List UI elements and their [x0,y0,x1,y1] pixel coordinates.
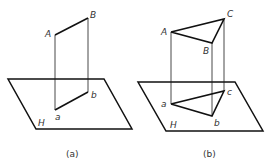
label-A: A [44,29,51,39]
projection-diagram: A B a b H (a) A B C a b c H (b) [0,0,265,165]
figure-a: A B a b H (a) [8,10,132,159]
plane-h-a [8,79,132,129]
label-B: B [90,10,96,20]
plane-h-b [138,82,263,131]
label-B: B [203,46,209,56]
figure-b: A B C a b c H (b) [138,9,263,159]
triangle-abc [171,91,224,116]
label-a: a [161,99,167,109]
caption-b: (b) [203,149,216,159]
label-b: b [91,90,97,100]
line-AB [55,18,88,35]
triangle-ABC [171,19,224,43]
label-c: c [227,87,232,97]
label-A: A [160,27,167,37]
label-H: H [170,120,177,130]
caption-a: (a) [66,149,79,159]
label-a: a [55,112,61,122]
label-H: H [38,118,45,128]
label-b: b [214,118,220,128]
label-C: C [227,9,234,19]
line-ab [55,92,88,110]
